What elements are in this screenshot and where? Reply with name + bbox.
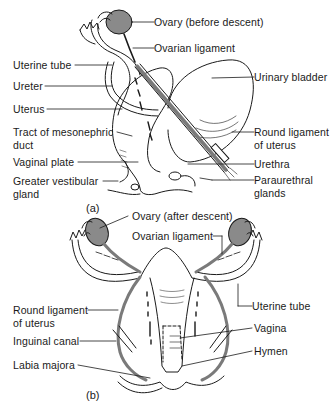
label-round-ligament-a-line1: Round ligament bbox=[254, 126, 329, 138]
embryology-figure: Ovary (before descent) Ovarian ligament … bbox=[0, 0, 333, 412]
panel-b-caption: (b) bbox=[86, 389, 99, 401]
label-round-ligament-b-line2: of uterus bbox=[13, 317, 55, 329]
label-greater-vestibular-line1: Greater vestibular bbox=[13, 175, 98, 187]
panel-a-drawing bbox=[80, 10, 253, 195]
label-greater-vestibular-line2: gland bbox=[13, 188, 39, 200]
label-ovary-after-descent: Ovary (after descent) bbox=[132, 210, 233, 222]
label-ovarian-ligament-a: Ovarian ligament bbox=[154, 42, 235, 54]
label-uterus: Uterus bbox=[13, 103, 45, 115]
label-ureter: Ureter bbox=[13, 80, 43, 92]
panel-a-caption: (a) bbox=[86, 202, 99, 214]
label-uterine-tube-b: Uterine tube bbox=[252, 300, 310, 312]
label-urethra: Urethra bbox=[254, 158, 290, 170]
label-vagina: Vagina bbox=[254, 322, 287, 334]
label-round-ligament-b-line1: Round ligament bbox=[13, 304, 88, 316]
label-labia-majora: Labia majora bbox=[13, 359, 75, 371]
label-uterine-tube-a: Uterine tube bbox=[13, 59, 71, 71]
label-urinary-bladder: Urinary bladder bbox=[254, 71, 327, 83]
label-mesonephric-duct-line2: duct bbox=[13, 139, 33, 151]
label-paraurethral-line2: glands bbox=[254, 187, 286, 199]
label-mesonephric-duct-line1: Tract of mesonephric bbox=[13, 126, 113, 138]
label-ovarian-ligament-b: Ovarian ligament bbox=[132, 230, 213, 242]
label-vaginal-plate: Vaginal plate bbox=[13, 156, 74, 168]
label-hymen: Hymen bbox=[254, 345, 288, 357]
label-paraurethral-line1: Paraurethral bbox=[254, 174, 313, 186]
label-ovary-before-descent: Ovary (before descent) bbox=[154, 16, 264, 28]
label-round-ligament-a-line2: of uterus bbox=[254, 139, 296, 151]
label-inguinal-canal: Inguinal canal bbox=[13, 335, 79, 347]
